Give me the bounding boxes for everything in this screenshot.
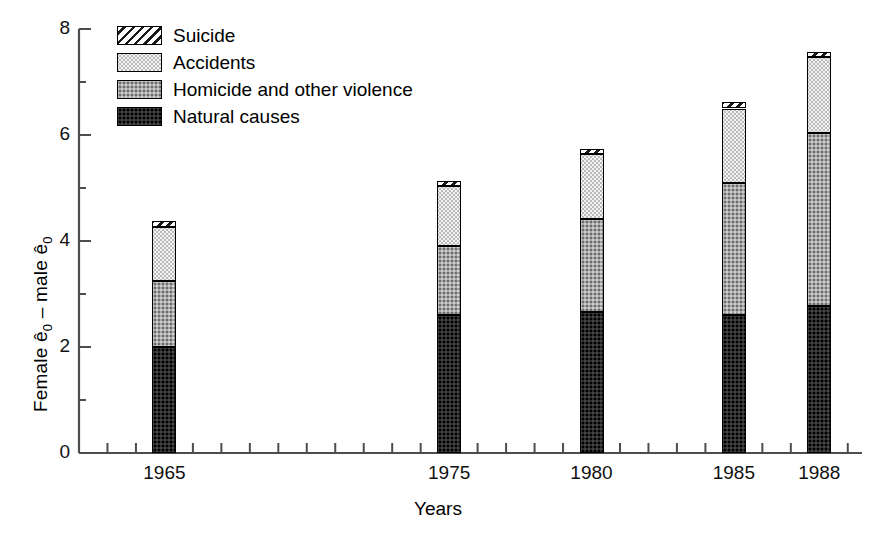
- y-axis-title-lead: Female ê: [30, 331, 51, 412]
- bar-segment: [152, 347, 176, 453]
- legend-item[interactable]: Suicide: [117, 22, 413, 49]
- x-tick-label: 1975: [428, 462, 470, 484]
- legend-swatch-icon: [117, 107, 162, 126]
- legend-swatch-icon: [117, 80, 162, 99]
- chart-legend: SuicideAccidentsHomicide and other viole…: [117, 22, 413, 130]
- bar-segment: [580, 149, 604, 154]
- x-tick-label: 1985: [713, 462, 755, 484]
- bar-segment: [807, 57, 831, 133]
- x-tick-label: 1965: [143, 462, 185, 484]
- legend-item[interactable]: Accidents: [117, 49, 413, 76]
- bar-segment: [437, 246, 461, 315]
- legend-swatch-icon: [117, 26, 162, 45]
- bar-segment: [580, 154, 604, 219]
- bar-segment: [722, 109, 746, 183]
- x-axis-title: Years: [414, 498, 462, 520]
- y-axis-title-sub-1: 0: [40, 324, 55, 331]
- y-tick-label: 4: [52, 229, 70, 251]
- legend-item[interactable]: Homicide and other violence: [117, 76, 413, 103]
- legend-item-label: Natural causes: [173, 107, 300, 126]
- y-tick-label: 6: [52, 123, 70, 145]
- legend-swatch-icon: [117, 53, 162, 72]
- bar-segment: [437, 181, 461, 186]
- y-axis-ticks: [79, 29, 91, 453]
- bar-segment: [152, 227, 176, 281]
- legend-item-label: Suicide: [173, 26, 235, 45]
- bar-segment: [722, 102, 746, 108]
- bar-segment: [807, 133, 831, 306]
- bar-segment: [152, 221, 176, 226]
- y-axis-title-mid: – male ê: [30, 244, 51, 324]
- bar-segment: [722, 315, 746, 453]
- bar-segment: [580, 312, 604, 453]
- x-tick-label: 1980: [570, 462, 612, 484]
- y-tick-label: 8: [52, 17, 70, 39]
- bar-segment: [437, 186, 461, 246]
- legend-item[interactable]: Natural causes: [117, 103, 413, 130]
- bar-segment: [722, 183, 746, 316]
- y-tick-label: 0: [52, 441, 70, 463]
- y-tick-label: 2: [52, 335, 70, 357]
- bar-segment: [437, 315, 461, 453]
- x-tick-label: 1988: [798, 462, 840, 484]
- bar-segment: [152, 281, 176, 347]
- legend-item-label: Accidents: [173, 53, 255, 72]
- legend-item-label: Homicide and other violence: [173, 80, 413, 99]
- bar-segment: [807, 52, 831, 57]
- bar-segment: [580, 219, 604, 312]
- y-axis-title: Female ê0 – male ê0: [4, 100, 44, 420]
- bar-segment: [807, 306, 831, 453]
- chart-figure: Female ê0 – male ê0 02468 19651975198019…: [0, 0, 883, 539]
- y-axis-title-text: Female ê0 – male ê0: [30, 236, 55, 412]
